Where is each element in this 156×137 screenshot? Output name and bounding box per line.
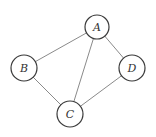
node-a: A: [85, 15, 109, 39]
node-b: B: [11, 55, 37, 81]
node-d-label: D: [127, 62, 137, 75]
node-a-label: A: [92, 21, 101, 34]
node-d: D: [119, 55, 145, 81]
node-b-label: B: [19, 62, 28, 75]
node-c: C: [57, 101, 83, 127]
edges: [24, 27, 132, 114]
node-c-label: C: [66, 108, 75, 121]
graph-diagram: A B C D: [0, 0, 156, 137]
